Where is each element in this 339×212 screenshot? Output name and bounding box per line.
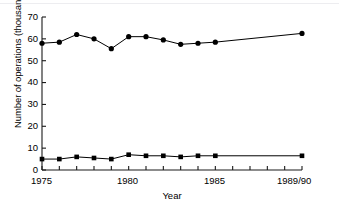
data-point-upper <box>57 40 62 45</box>
data-point-upper <box>161 37 166 42</box>
series-lower-line <box>42 155 302 159</box>
data-point-upper <box>91 36 96 41</box>
series-upper-polyline <box>42 33 302 48</box>
data-point-lower <box>161 153 166 158</box>
data-point-lower <box>40 157 45 162</box>
data-point-lower <box>144 153 149 158</box>
data-point-lower <box>92 156 97 161</box>
data-point-upper <box>299 31 304 36</box>
data-point-upper <box>109 46 114 51</box>
data-point-lower <box>126 152 131 157</box>
data-point-upper <box>39 41 44 46</box>
chart-figure: Number of operations (thousands) Year 70… <box>0 0 339 212</box>
series-upper-line <box>42 33 302 48</box>
data-point-upper <box>213 40 218 45</box>
data-point-upper <box>126 34 131 39</box>
data-point-lower <box>196 153 201 158</box>
data-point-upper <box>143 34 148 39</box>
y-axis-ticks <box>42 17 46 170</box>
data-point-lower <box>109 157 114 162</box>
data-point-lower <box>178 155 183 160</box>
series-upper-markers <box>39 31 304 52</box>
axis-lines <box>42 17 302 170</box>
data-point-lower <box>57 157 62 162</box>
data-point-upper <box>74 32 79 37</box>
x-axis-ticks <box>42 166 302 170</box>
data-point-lower <box>300 153 305 158</box>
plot-area <box>0 0 339 212</box>
data-point-lower <box>74 155 79 160</box>
data-point-lower <box>213 153 218 158</box>
data-point-upper <box>195 41 200 46</box>
series-lower-polyline <box>42 155 302 159</box>
data-point-upper <box>178 42 183 47</box>
